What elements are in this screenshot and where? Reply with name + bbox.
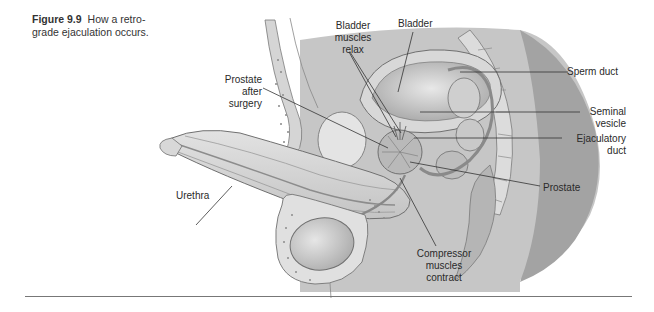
- label-seminal-vesicle: Seminal vesicle: [560, 106, 626, 130]
- label-prostate: Prostate: [543, 182, 580, 194]
- bottom-divider: [25, 296, 632, 297]
- label-compressor-muscles-contract: Compressor muscles contract: [404, 248, 484, 284]
- label-urethra: Urethra: [176, 190, 209, 202]
- label-bladder: Bladder: [398, 18, 432, 30]
- label-bladder-muscles-relax: Bladder muscles relax: [318, 20, 388, 56]
- label-ejaculatory-duct: Ejaculatory duct: [548, 133, 626, 157]
- label-sperm-duct: Sperm duct: [567, 66, 618, 78]
- label-prostate-after-surgery: Prostate after surgery: [200, 74, 262, 110]
